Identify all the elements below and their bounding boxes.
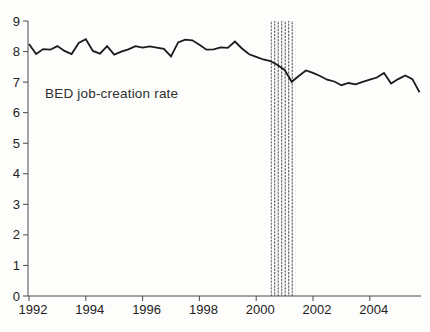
x-tick-label: 2000 xyxy=(246,302,275,317)
series-annotation-label: BED job-creation rate xyxy=(45,86,178,101)
y-tick-label: 4 xyxy=(13,166,20,181)
x-tick-label: 1992 xyxy=(19,302,48,317)
y-tick-label: 5 xyxy=(13,136,20,151)
y-tick-label: 6 xyxy=(13,105,20,120)
y-tick-label: 1 xyxy=(13,258,20,273)
x-tick-label: 2002 xyxy=(303,302,332,317)
x-tick-label: 1996 xyxy=(132,302,161,317)
y-tick-label: 7 xyxy=(13,75,20,90)
x-tick-label: 1998 xyxy=(189,302,218,317)
y-tick-label: 3 xyxy=(13,197,20,212)
chart-svg: 01234567891992199419961998200020022004 xyxy=(0,0,430,332)
series-line xyxy=(29,39,420,92)
y-tick-label: 2 xyxy=(13,227,20,242)
axes xyxy=(23,21,421,301)
chart: 01234567891992199419961998200020022004 B… xyxy=(0,0,430,332)
x-tick-label: 1994 xyxy=(75,302,104,317)
x-tick-label: 2004 xyxy=(359,302,388,317)
y-tick-label: 9 xyxy=(13,14,20,29)
y-tick-label: 8 xyxy=(13,44,20,59)
